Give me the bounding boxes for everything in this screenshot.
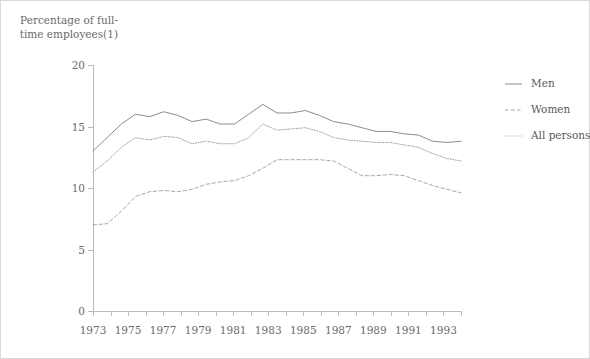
legend: Men Women All persons (505, 76, 590, 154)
x-axis-tick-label: 1985 (290, 325, 317, 336)
series-lines (93, 65, 461, 311)
x-axis-line (93, 311, 461, 312)
legend-swatch-women (505, 109, 522, 111)
x-axis-tick (338, 311, 339, 316)
x-axis-tick (146, 311, 147, 316)
series-line-all-persons (93, 124, 461, 172)
x-axis-tick (251, 311, 252, 316)
x-axis-tick-label: 1973 (80, 325, 107, 336)
legend-item-all-persons: All persons (505, 128, 590, 154)
x-axis-tick (216, 311, 217, 316)
legend-label-women: Women (531, 102, 570, 116)
x-axis-tick-label: 1975 (115, 325, 142, 336)
series-line-women (93, 160, 461, 225)
x-axis-tick (356, 311, 357, 316)
legend-label-all-persons: All persons (531, 128, 590, 142)
line-chart: Percentage of full-time employees(1) 051… (0, 0, 590, 359)
y-axis-tick-label: 10 (72, 183, 85, 193)
legend-item-men: Men (505, 76, 590, 102)
x-axis-tick (93, 311, 94, 316)
plot-area: 05101520 1973197519771979198119831985198… (93, 65, 461, 311)
x-axis-tick (111, 311, 112, 316)
x-axis-tick (163, 311, 164, 316)
x-axis-tick (373, 311, 374, 316)
y-axis-tick-label: 20 (72, 60, 85, 70)
x-axis-tick (286, 311, 287, 316)
y-axis-title: Percentage of full-time employees(1) (6, 14, 118, 41)
x-axis-tick (443, 311, 444, 316)
legend-swatch-all-persons (505, 135, 522, 137)
x-axis-tick (198, 311, 199, 316)
x-axis-tick (426, 311, 427, 316)
series-line-men (93, 104, 461, 151)
x-axis-tick-label: 1989 (360, 325, 387, 336)
x-axis-tick (268, 311, 269, 316)
x-axis-tick (233, 311, 234, 316)
y-axis-tick-label: 0 (78, 306, 85, 316)
x-axis-tick (321, 311, 322, 316)
x-axis-tick-label: 1993 (430, 325, 457, 336)
legend-item-women: Women (505, 102, 590, 128)
x-axis-tick (181, 311, 182, 316)
legend-label-men: Men (531, 76, 555, 90)
x-axis-tick-label: 1991 (395, 325, 422, 336)
x-axis-tick-label: 1981 (220, 325, 247, 336)
x-axis-tick (391, 311, 392, 316)
x-axis-tick (128, 311, 129, 316)
x-axis-tick-label: 1987 (325, 325, 352, 336)
x-axis-tick (303, 311, 304, 316)
x-axis-tick (408, 311, 409, 316)
legend-swatch-men (505, 83, 522, 85)
y-axis-tick-label: 5 (78, 245, 85, 255)
x-axis-tick-label: 1977 (150, 325, 177, 336)
y-axis-tick-label: 15 (72, 122, 85, 132)
x-axis-tick (461, 311, 462, 316)
x-axis-tick-label: 1979 (185, 325, 212, 336)
x-axis-tick-label: 1983 (255, 325, 282, 336)
